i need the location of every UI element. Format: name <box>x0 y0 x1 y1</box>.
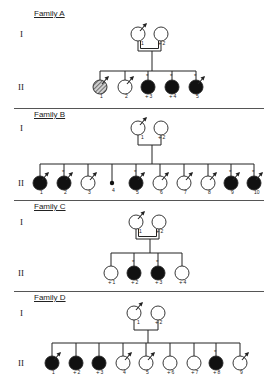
unaffected-symbol <box>233 356 247 370</box>
unaffected-symbol <box>127 306 141 320</box>
individual-4[interactable]: 4 <box>110 181 115 193</box>
deceased-plus-icon: + <box>167 369 171 375</box>
individual-1[interactable]: 1 <box>131 117 147 140</box>
unaffected-symbol <box>139 356 153 370</box>
star-icon: * <box>229 169 232 175</box>
individual-8[interactable]: 8 <box>201 172 217 195</box>
deceased-plus-icon: + <box>213 369 217 375</box>
individual-8[interactable]: *+8 <box>209 349 223 376</box>
unaffected-symbol <box>116 356 130 370</box>
star-icon: * <box>252 169 255 175</box>
individual-number: 8 <box>218 369 221 375</box>
family-title: Family A <box>34 9 65 18</box>
star-icon: * <box>62 169 65 175</box>
individual-number: 1 <box>100 93 103 99</box>
generation-label-II: II <box>18 268 24 278</box>
individual-2[interactable]: *+2 <box>127 259 141 286</box>
deceased-plus-icon: + <box>155 279 159 285</box>
individual-10[interactable]: *10 <box>247 169 263 196</box>
individual-2[interactable]: +2 <box>154 27 168 46</box>
individual-2[interactable]: *2 <box>57 169 73 196</box>
individual-1[interactable]: 1 <box>33 172 49 195</box>
individual-1[interactable]: 1 <box>93 76 109 99</box>
individual-number: 3 <box>88 189 91 195</box>
generation-label-I: I <box>20 123 23 133</box>
star-icon: * <box>146 73 149 79</box>
pedigree-canvas: 1+212*+3*+4*51+21*234*5678*9*101+2+1*+2*… <box>0 0 277 391</box>
unaffected-symbol <box>151 306 165 320</box>
individual-9[interactable]: *9 <box>224 169 240 196</box>
individual-6[interactable]: 6 <box>153 172 169 195</box>
deceased-plus-icon: + <box>131 279 135 285</box>
individual-5[interactable]: *5 <box>189 73 205 100</box>
individual-5[interactable]: *5 <box>129 169 145 196</box>
individual-3[interactable]: +3 <box>92 356 106 375</box>
individual-1[interactable]: 1 <box>131 23 147 46</box>
individual-2[interactable]: +2 <box>151 306 165 325</box>
unaffected-symbol <box>104 266 118 280</box>
unaffected-symbol <box>175 266 189 280</box>
deceased-plus-icon: + <box>108 279 112 285</box>
individual-1[interactable]: 1 <box>127 302 143 325</box>
deceased-plus-icon: + <box>179 279 183 285</box>
individual-number: 8 <box>208 189 211 195</box>
individual-2[interactable]: +2 <box>69 356 83 375</box>
deceased-plus-icon: + <box>158 40 162 46</box>
star-icon: * <box>170 73 173 79</box>
affected-symbol <box>247 176 261 190</box>
individual-number: 7 <box>196 369 199 375</box>
affected-symbol <box>57 176 71 190</box>
individual-2[interactable]: +2 <box>152 215 166 234</box>
individual-number: 3 <box>150 93 153 99</box>
individual-number: 2 <box>78 369 81 375</box>
individual-1[interactable]: 1 <box>129 211 145 234</box>
generation-label-I: I <box>20 217 23 227</box>
unaffected-symbol <box>131 121 145 135</box>
individual-3[interactable]: *+3 <box>151 259 165 286</box>
generation-label-I: I <box>20 29 23 39</box>
individual-number: 6 <box>160 189 163 195</box>
affected-symbol <box>224 176 238 190</box>
unaffected-symbol <box>187 356 201 370</box>
unaffected-symbol <box>81 176 95 190</box>
deceased-plus-icon: + <box>145 93 149 99</box>
individual-5[interactable]: 5 <box>139 352 155 375</box>
individual-4[interactable]: *+4 <box>165 73 179 100</box>
star-icon: * <box>156 259 159 265</box>
affected-symbol <box>45 356 59 370</box>
affected-symbol <box>92 356 106 370</box>
individual-6[interactable]: +6 <box>163 356 177 375</box>
generation-label-II: II <box>18 178 24 188</box>
individual-9[interactable]: 9 <box>233 352 249 375</box>
individual-7[interactable]: +7 <box>187 356 201 375</box>
individual-number: 2 <box>125 93 128 99</box>
individual-number: 9 <box>240 369 243 375</box>
generation-label-II: II <box>18 358 24 368</box>
unaffected-symbol <box>118 80 132 94</box>
family-divider <box>14 200 264 201</box>
individual-1[interactable]: +1 <box>104 266 118 285</box>
star-icon: * <box>134 169 137 175</box>
family-family-c: 1+2+1*+2*+3+4 <box>104 211 189 285</box>
individual-4[interactable]: 4 <box>116 352 132 375</box>
unaffected-symbol <box>201 176 215 190</box>
individual-number: 2 <box>64 189 67 195</box>
individual-2[interactable]: +2 <box>154 121 168 140</box>
deceased-plus-icon: + <box>191 369 195 375</box>
individual-number: 1 <box>139 228 142 234</box>
individual-3[interactable]: 3 <box>81 172 97 195</box>
individual-1[interactable]: 1 <box>45 352 61 375</box>
individual-4[interactable]: +4 <box>175 266 189 285</box>
individual-3[interactable]: *+3 <box>141 73 155 100</box>
individual-number: 2 <box>136 279 139 285</box>
deceased-plus-icon: + <box>158 134 162 140</box>
family-title: Family D <box>34 293 66 302</box>
individual-7[interactable]: 7 <box>177 172 193 195</box>
family-family-a: 1+212*+3*+4*5 <box>93 23 205 99</box>
individual-number: 6 <box>172 369 175 375</box>
unaffected-symbol <box>129 215 143 229</box>
deceased-plus-icon: + <box>96 369 100 375</box>
individual-2[interactable]: 2 <box>118 76 134 99</box>
individual-number: 1 <box>52 369 55 375</box>
individual-number: 4 <box>112 187 115 193</box>
